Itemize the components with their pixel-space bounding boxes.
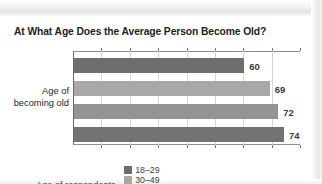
axis-tick (272, 48, 273, 51)
legend-swatch (124, 166, 132, 174)
axis-tick (158, 145, 159, 148)
axis-tick (272, 145, 273, 148)
legend-label: 30–49 (135, 175, 159, 184)
bar-row[interactable]: 69 (74, 81, 270, 96)
bar-row[interactable]: 74 (74, 127, 284, 142)
bar-value-label: 72 (283, 106, 293, 117)
axis-tick (130, 48, 131, 51)
plot-area: 60697274 (73, 51, 300, 145)
axis-tick (187, 48, 188, 51)
axis-tick (300, 48, 301, 51)
bar-value-label: 60 (249, 60, 259, 71)
axis-tick (300, 145, 301, 148)
legend-items: 18–2930–4950–6465+ (124, 165, 169, 184)
axis-tick (187, 145, 188, 148)
page-right-edge (311, 0, 322, 184)
legend-swatch (124, 176, 132, 184)
legend: Age of respondents 18–2930–4950–6465+ (36, 165, 169, 184)
axis-tick (101, 48, 102, 51)
legend-item[interactable]: 18–29 (124, 165, 160, 175)
legend-title: Age of respondents (36, 180, 116, 184)
category-axis-label-line2: becoming old (0, 98, 69, 110)
axis-tick (130, 145, 131, 148)
bar-row[interactable]: 72 (74, 104, 278, 119)
chart-title: At What Age Does the Average Person Beco… (14, 26, 266, 37)
bar[interactable] (74, 127, 284, 142)
category-axis-label-line1: Age of (0, 86, 69, 98)
bar[interactable] (74, 81, 270, 96)
bar-value-label: 69 (275, 83, 285, 94)
axis-tick (243, 145, 244, 148)
bar[interactable] (74, 58, 244, 73)
axis-tick (215, 48, 216, 51)
axis-tick (215, 145, 216, 148)
bar[interactable] (74, 104, 278, 119)
legend-item[interactable]: 30–49 (124, 175, 160, 184)
bar-row[interactable]: 60 (74, 58, 244, 73)
axis-tick (158, 48, 159, 51)
legend-label: 18–29 (135, 165, 159, 175)
bar-value-label: 74 (289, 129, 299, 140)
category-axis-label: Age of becoming old (0, 86, 69, 109)
axis-tick (101, 145, 102, 148)
page-top-shadow (0, 0, 322, 16)
axis-tick (243, 48, 244, 51)
